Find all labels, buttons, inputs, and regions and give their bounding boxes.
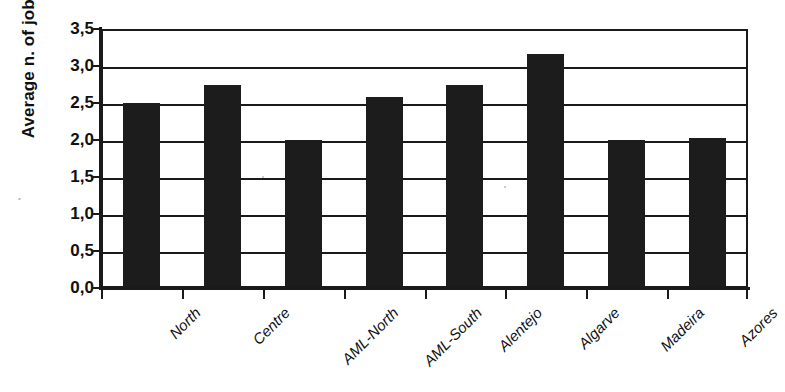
x-axis-tick-labels: NorthCentreAML-NorthAML-SouthAlentejoAlg… <box>101 300 748 390</box>
x-axis-tick <box>746 290 748 299</box>
x-axis-tick <box>344 290 346 299</box>
x-axis-tick-label-text: Algarve <box>575 304 623 352</box>
bar-aml-north <box>285 140 322 288</box>
y-axis-tick-label: 0,0 <box>44 278 94 298</box>
x-axis-tick-label-algarve: Algarve <box>575 304 623 352</box>
x-axis-tick-label-centre: Centre <box>249 304 293 348</box>
x-axis-tick-label-text: Centre <box>249 304 293 348</box>
x-axis-tick-label-text: Madeira <box>657 304 707 354</box>
x-axis-tick-label-aml-south: AML-South <box>420 304 485 369</box>
y-axis-title: Average n. of jobs <box>10 0 48 214</box>
bar-centre <box>204 85 241 289</box>
scan-artifact <box>504 186 506 188</box>
scan-artifact <box>262 176 264 178</box>
x-axis-tick <box>586 290 588 299</box>
x-axis-tick-label-text: AML-North <box>338 304 401 367</box>
y-axis-tick-label: 1,0 <box>44 204 94 224</box>
y-axis-tick-labels: 3,53,02,52,01,51,00,50,0 <box>44 29 94 288</box>
x-axis-tick <box>263 290 265 299</box>
scan-artifact <box>18 198 21 200</box>
bar-algarve <box>527 54 564 288</box>
x-axis-tick <box>425 290 427 299</box>
bar-alentejo <box>446 85 483 289</box>
bar-series <box>101 29 748 288</box>
x-axis-tick-label-azores: Azores <box>736 304 781 349</box>
x-axis-tick-label-aml-north: AML-North <box>338 304 401 367</box>
x-axis-tick-label-madeira: Madeira <box>657 304 707 354</box>
bar-aml-south <box>366 97 403 288</box>
y-axis-tick-label: 2,0 <box>44 130 94 150</box>
x-axis-tick-label-text: Alentejo <box>495 304 545 354</box>
bar-madeira <box>608 140 645 288</box>
y-axis-tick-label: 1,5 <box>44 167 94 187</box>
x-axis-tick-label-alentejo: Alentejo <box>495 304 545 354</box>
x-axis-tick <box>182 290 184 299</box>
y-axis-tick-label: 3,5 <box>44 19 94 39</box>
x-axis-tick-label-text: Azores <box>736 304 781 349</box>
x-axis-ticks <box>101 290 748 299</box>
x-axis-tick <box>667 290 669 299</box>
y-axis-tick-label: 2,5 <box>44 93 94 113</box>
x-axis-tick-label-text: North <box>166 304 204 342</box>
x-axis-tick-label-text: AML-South <box>420 304 485 369</box>
x-axis-tick <box>101 290 103 299</box>
x-axis-tick-label-north: North <box>166 304 204 342</box>
y-axis-tick-label: 0,5 <box>44 241 94 261</box>
y-axis-tick-label: 3,0 <box>44 56 94 76</box>
bar-chart-figure: Average n. of jobs 3,53,02,52,01,51,00,5… <box>0 0 785 392</box>
bar-north <box>123 103 160 288</box>
bar-azores <box>689 138 726 288</box>
x-axis-tick <box>505 290 507 299</box>
